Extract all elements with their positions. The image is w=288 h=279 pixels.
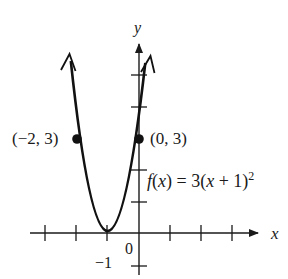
curve-arrow-right-icon (141, 56, 155, 73)
parabola-graph: y x (−2, 3) (0, 3) 0 −1 f(x) = 3(x + 1)2 (0, 0, 288, 279)
x-axis-label: x (271, 225, 279, 242)
point-label-neg2-3: (−2, 3) (12, 130, 58, 147)
function-exponent: 2 (248, 169, 254, 183)
curve-arrow-left-icon (61, 54, 76, 71)
origin-label: 0 (125, 241, 133, 257)
function-label: f(x) = 3(x + 1)2 (147, 170, 254, 190)
point-label-0-3: (0, 3) (150, 130, 187, 147)
function-var-2: x (206, 171, 214, 191)
point-neg2-3 (72, 134, 82, 144)
x-tick-label-neg1: −1 (95, 255, 112, 271)
x-axis (30, 225, 258, 241)
function-plus: + 1) (219, 171, 249, 191)
parabola-curve (71, 61, 146, 231)
point-0-3 (134, 134, 144, 144)
y-axis-label: y (134, 20, 141, 36)
function-var: x (158, 171, 166, 191)
function-name: f (147, 171, 152, 191)
function-eq: = 3( (177, 171, 207, 191)
